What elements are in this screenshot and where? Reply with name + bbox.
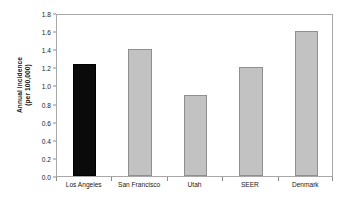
y-axis-tick-label: 0.4 [42, 137, 51, 144]
x-axis-tick-label: Los Angeles [66, 181, 102, 188]
x-axis-tick-mark [111, 177, 112, 181]
y-axis-tick-label: 0.2 [42, 155, 51, 162]
bar-san-francisco [128, 49, 151, 176]
y-axis-tick-label: 1.8 [42, 11, 51, 18]
x-axis-tick-labels: Los AngelesSan FranciscoUtahSEERDenmark [56, 181, 333, 195]
x-axis-tick-label: Denmark [292, 181, 319, 188]
bar-utah [184, 95, 207, 177]
bar-los-angeles [73, 64, 96, 176]
y-axis-tick-label: 1.6 [42, 29, 51, 36]
y-axis-tick-label: 1.2 [42, 65, 51, 72]
bar-seer [239, 67, 262, 176]
y-axis-tick-label: 0.6 [42, 119, 51, 126]
x-axis-tick-label: SEER [241, 181, 259, 188]
x-axis-tick-mark [56, 177, 57, 181]
x-axis-tick-mark [222, 177, 223, 181]
plot-area [56, 14, 333, 177]
y-axis-title-line-1: Annual incidence [16, 57, 24, 113]
x-axis-tick-mark [167, 177, 168, 181]
y-axis-tick-labels: 0.00.20.40.60.81.01.21.41.61.8 [30, 14, 51, 177]
y-axis-tick-label: 1.0 [42, 83, 51, 90]
x-axis-tick-label: San Francisco [118, 181, 160, 188]
x-axis-tick-mark [278, 177, 279, 181]
x-axis-tick-mark [332, 177, 333, 181]
bar-series [57, 15, 332, 176]
y-axis-tick-label: 0.8 [42, 101, 51, 108]
y-axis-tick-label: 1.4 [42, 47, 51, 54]
y-axis-tick-label: 0.0 [42, 174, 51, 181]
x-axis-tick-label: Utah [188, 181, 202, 188]
bar-denmark [295, 31, 318, 176]
bar-chart-figure: Annual incidence (per 100,000) 0.00.20.4… [0, 0, 345, 208]
